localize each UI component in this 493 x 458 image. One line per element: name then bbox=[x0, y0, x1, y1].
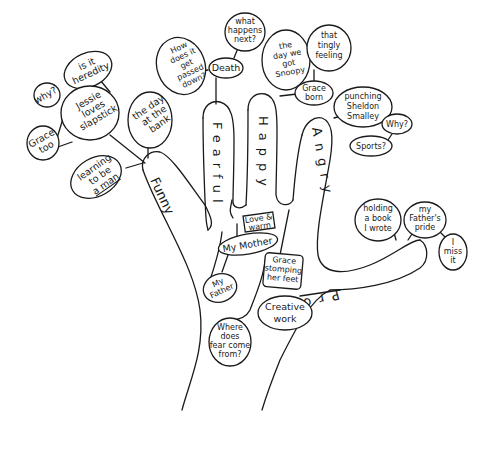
hand-mind-map: Funny Fearful Happy Angry Proud why? bbox=[0, 0, 493, 458]
palm-items: Love &warm My Mother Gracestompingher fe… bbox=[199, 212, 303, 366]
love-warm-text: Love &warm bbox=[244, 212, 274, 233]
book-text: holdinga bookI wrote bbox=[363, 204, 393, 233]
angry-branch: punchingSheldonSmalley Why? Sports? bbox=[334, 87, 412, 156]
middle-label: Happy bbox=[256, 116, 271, 193]
why-angry-text: Why? bbox=[386, 120, 408, 129]
punching-text: punchingSheldonSmalley bbox=[344, 92, 381, 121]
ring-label: Fearful bbox=[210, 122, 225, 209]
pinky-label: Funny bbox=[147, 175, 177, 217]
fearful-branch: Howdoes itgetpasseddown? Death whathappe… bbox=[149, 13, 265, 101]
grace-born-text: Graceborn bbox=[302, 84, 326, 102]
happy-branch: theday wegotSnoopy thattinglyfeeling Gra… bbox=[262, 25, 351, 105]
sports-text: Sports? bbox=[356, 142, 386, 151]
death-text: Death bbox=[212, 62, 241, 73]
